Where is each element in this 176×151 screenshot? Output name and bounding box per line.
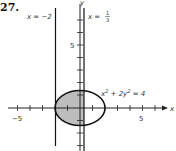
problem-number: 27. (0, 1, 19, 14)
svg-text:3: 3 (106, 17, 109, 23)
x-tick-label-5: 5 (139, 115, 143, 123)
svg-text:1: 1 (106, 10, 109, 16)
x-axis-label: x (169, 105, 175, 113)
y-tick-label-5: 5 (70, 42, 74, 50)
ellipse-equation-label: x2 + 2y2 = 4 (100, 88, 145, 98)
y-axis-label: y (79, 0, 85, 7)
line-x-one-third-label: x = 1 3 (87, 10, 110, 23)
line-x-neg2-label: x = −2 (26, 13, 52, 21)
x-axis-arrow-icon (162, 106, 168, 111)
svg-text:x =: x = (87, 13, 100, 21)
graph-figure: x −5 5 y 5 x = −2 x = 1 3 (0, 0, 176, 151)
x-tick-label-neg5: −5 (12, 115, 22, 123)
